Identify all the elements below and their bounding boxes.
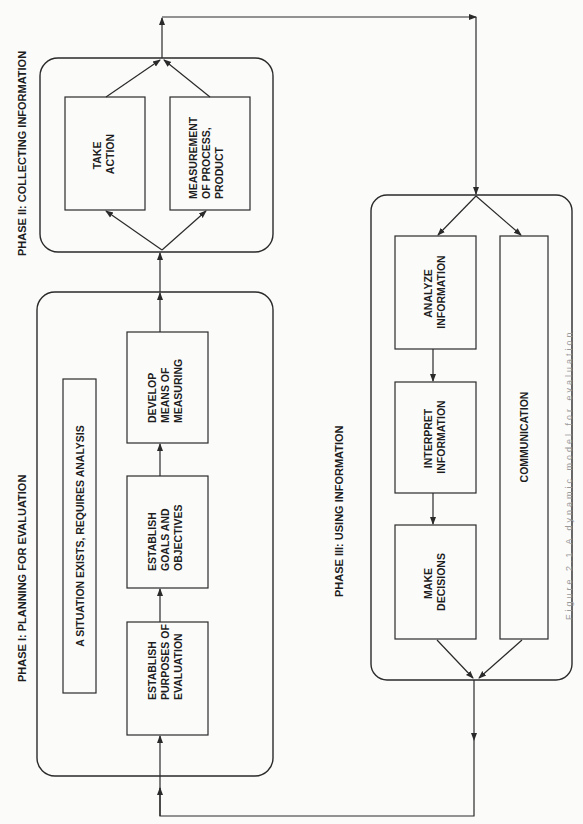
develop-means-label: DEVELOP MEANS OF MEASURING [146, 359, 184, 423]
evaluation-model-diagram: PHASE I: PLANNING FOR EVALUATION A SITUA… [0, 0, 583, 824]
phase2-title: PHASE II: COLLECTING INFORMATION [16, 51, 28, 256]
phase3-title: PHASE III: USING INFORMATION [333, 425, 345, 597]
interpret-label: INTERPRET INFORMATION [422, 400, 447, 473]
make-decisions-label: MAKE DECISIONS [422, 553, 447, 611]
phase3-container [371, 195, 572, 680]
communication-label: COMMUNICATION [518, 392, 530, 483]
take-action-label: TAKE ACTION [91, 134, 116, 174]
arrow-split-to-analyze [438, 196, 476, 235]
arrow-communication-to-merge [479, 640, 522, 678]
phase3-group: PHASE III: USING INFORMATION ANALYZE INF… [333, 195, 572, 680]
measurement-label: MEASUREMENT OF PROCESS, PRODUCT [187, 114, 225, 199]
figure-caption: Figure 2.1 A dynamic model for evaluatio… [564, 329, 574, 620]
establish-goals-label: ESTABLISH GOALS AND OBJECTIVES [146, 504, 184, 571]
phase1-title: PHASE I: PLANNING FOR EVALUATION [16, 475, 28, 682]
arrow-split-to-communication [476, 196, 521, 235]
phase2-container [40, 58, 273, 252]
arrow-split-to-action [106, 211, 162, 250]
arrow-action-to-merge [106, 60, 160, 97]
connector-bottom-left [160, 740, 474, 816]
analyze-label: ANALYZE INFORMATION [422, 255, 447, 328]
arrow-measure-to-merge [164, 60, 210, 97]
arrow-split-to-measure [162, 211, 206, 250]
arrow-decisions-to-merge [437, 640, 473, 678]
phase1-group: PHASE I: PLANNING FOR EVALUATION A SITUA… [16, 292, 273, 776]
situation-label: A SITUATION EXISTS, REQUIRES ANALYSIS [74, 425, 86, 647]
phase2-group: PHASE II: COLLECTING INFORMATION TAKE AC… [16, 18, 273, 292]
establish-purposes-label: ESTABLISH PURPOSES OF EVALUATION [146, 621, 184, 700]
